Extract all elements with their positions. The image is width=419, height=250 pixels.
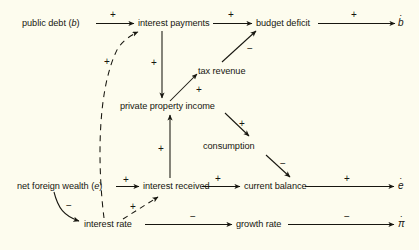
sign-growth-rate-to-pi-dot: − <box>344 212 350 222</box>
sign-budget-deficit-to-b-dot: + <box>351 10 357 20</box>
node-interest-rate[interactable]: interest rate <box>84 220 132 229</box>
edge-private-property-income-to-consumption <box>225 113 249 136</box>
sign-interest-payments-to-private-property-income: + <box>151 58 157 68</box>
edge-private-property-income-to-tax-revenue <box>170 74 197 101</box>
output-pi-dot: · π <box>398 215 405 229</box>
node-public-debt[interactable]: public debt (b) <box>22 19 79 28</box>
sign-consumption-to-current-balance: − <box>280 159 286 169</box>
node-budget-deficit[interactable]: budget deficit <box>256 19 310 28</box>
edge-consumption-to-current-balance <box>266 155 290 177</box>
causal-loop-diagram: public debt (b) interest payments budget… <box>0 0 419 250</box>
node-interest-payments[interactable]: interest payments <box>138 19 210 28</box>
node-growth-rate[interactable]: growth rate <box>236 220 281 229</box>
sign-private-property-income-to-tax-revenue: + <box>196 85 202 95</box>
node-net-foreign-wealth[interactable]: net foreign wealth (e) <box>17 182 102 191</box>
sign-interest-rate-to-interest-payments: + <box>104 57 110 67</box>
sign-private-property-income-to-consumption: + <box>239 119 245 129</box>
edge-layer <box>0 0 419 250</box>
sign-interest-received-to-current-balance: + <box>215 174 221 184</box>
sign-interest-rate-to-growth-rate: − <box>190 212 196 222</box>
sign-current-balance-to-e-dot: + <box>344 174 350 184</box>
node-current-balance[interactable]: current balance <box>244 182 307 191</box>
node-tax-revenue[interactable]: tax revenue <box>198 67 245 76</box>
sign-interest-payments-to-budget-deficit: + <box>228 10 234 20</box>
output-e-dot: · e <box>398 177 404 191</box>
sign-public-debt-to-interest-payments: + <box>110 10 116 20</box>
edge-interest-rate-to-interest-received-dashed <box>123 197 158 219</box>
sign-interest-received-to-private-property-income: + <box>158 144 164 154</box>
node-interest-received[interactable]: interest received <box>143 182 210 191</box>
sign-net-foreign-wealth-to-interest-rate: − <box>66 201 72 211</box>
output-b-dot: · b <box>398 14 404 28</box>
node-consumption[interactable]: consumption <box>203 142 255 151</box>
node-private-property-income[interactable]: private property income <box>120 102 215 111</box>
sign-tax-revenue-to-budget-deficit: − <box>247 44 253 54</box>
sign-net-foreign-wealth-to-interest-received: + <box>123 175 129 185</box>
sign-interest-rate-to-interest-received: + <box>130 202 136 212</box>
